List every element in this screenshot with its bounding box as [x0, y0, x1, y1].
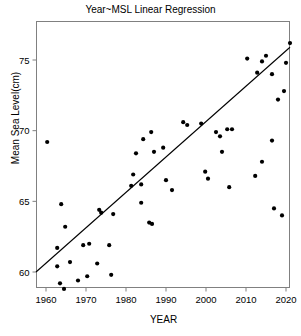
regression-line	[36, 47, 290, 272]
scatter-point	[264, 54, 268, 58]
scatter-point	[203, 170, 207, 174]
scatter-point	[206, 177, 210, 181]
scatter-point	[139, 201, 143, 205]
scatter-point	[199, 122, 203, 126]
scatter-point	[253, 174, 257, 178]
scatter-point	[260, 160, 264, 164]
scatter-point	[185, 123, 189, 127]
scatter-point	[150, 222, 154, 226]
scatter-point	[134, 151, 138, 155]
scatter-point	[245, 56, 249, 60]
scatter-point	[220, 150, 224, 154]
scatter-point	[214, 130, 218, 134]
scatter-point	[76, 278, 80, 282]
y-tick-label: 65	[19, 196, 30, 207]
x-tick-label: 1990	[155, 294, 176, 305]
scatter-point	[161, 146, 165, 150]
scatter-point	[85, 274, 89, 278]
x-axis-ticks: 1960197019801990200020102020	[35, 288, 296, 305]
scatter-point	[141, 137, 145, 141]
scatter-point	[270, 72, 274, 76]
plot-frame	[37, 22, 290, 288]
scatter-point	[181, 120, 185, 124]
scatter-point	[95, 261, 99, 265]
scatter-point	[225, 127, 229, 131]
scatter-point	[164, 178, 168, 182]
scatter-point	[272, 206, 276, 210]
x-axis-label: YEAR	[36, 314, 291, 326]
scatter-point	[218, 134, 222, 138]
scatter-point	[55, 264, 59, 268]
y-axis-label: Mean Sea Level(cm)	[10, 58, 22, 178]
scatter-point	[230, 127, 234, 131]
scatter-point	[255, 71, 259, 75]
scatter-point	[63, 225, 67, 229]
y-tick-label: 60	[19, 267, 30, 278]
x-tick-label: 2020	[275, 294, 296, 305]
scatter-point	[260, 59, 264, 63]
scatter-point	[270, 138, 274, 142]
scatter-point	[227, 185, 231, 189]
x-tick-label: 1970	[75, 294, 96, 305]
scatter-point	[282, 89, 286, 93]
scatter-point	[62, 287, 66, 291]
x-tick-label: 1960	[35, 294, 56, 305]
scatter-point	[107, 243, 111, 247]
x-tick-label: 2000	[195, 294, 216, 305]
chart-figure: Year~MSL Linear Regression 60657075 1960…	[0, 0, 301, 336]
scatter-point	[139, 182, 143, 186]
scatter-point	[284, 61, 288, 65]
scatter-point	[109, 273, 113, 277]
scatter-point	[111, 212, 115, 216]
scatter-point	[170, 188, 174, 192]
scatter-point	[276, 97, 280, 101]
x-tick-label: 2010	[235, 294, 256, 305]
scatter-plot: 60657075 1960197019801990200020102020	[0, 0, 301, 336]
scatter-point	[149, 130, 153, 134]
scatter-point	[87, 242, 91, 246]
scatter-point	[99, 211, 103, 215]
scatter-point	[129, 184, 133, 188]
scatter-point	[280, 213, 284, 217]
x-tick-label: 1980	[115, 294, 136, 305]
scatter-point	[131, 172, 135, 176]
scatter-point	[59, 202, 63, 206]
regression-line-segment	[36, 47, 290, 272]
scatter-point	[288, 41, 292, 45]
scatter-point	[58, 281, 62, 285]
scatter-point	[68, 260, 72, 264]
scatter-point	[152, 150, 156, 154]
scatter-point	[55, 246, 59, 250]
scatter-point	[45, 140, 49, 144]
scatter-point	[81, 243, 85, 247]
